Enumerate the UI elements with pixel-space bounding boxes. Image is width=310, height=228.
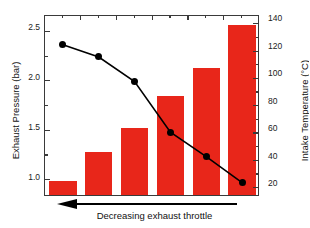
left-arrow-icon bbox=[47, 199, 262, 209]
y-tick-label-left: 1.0 bbox=[28, 172, 40, 182]
y-tick-label-right: 80 bbox=[268, 96, 277, 106]
chart-figure: Exhaust Pressure (bar) Intake Temperatur… bbox=[0, 0, 309, 228]
line-path bbox=[63, 45, 242, 183]
y-tick-left bbox=[44, 80, 50, 81]
y-tick-right bbox=[256, 37, 260, 38]
x-tick-top bbox=[44, 15, 45, 20]
y-axis-label-left: Exhaust Pressure (bar) bbox=[10, 21, 21, 201]
y-tick-left bbox=[44, 154, 48, 155]
annotation-decreasing-throttle: Decreasing exhaust throttle bbox=[47, 199, 262, 209]
y-tick-label-right: 40 bbox=[268, 151, 277, 161]
y-tick-label-right: 100 bbox=[268, 68, 282, 78]
data-point-marker bbox=[203, 153, 210, 160]
x-tick-top bbox=[241, 15, 242, 18]
y-tick-right bbox=[256, 146, 260, 147]
y-tick-label-right: 140 bbox=[268, 13, 282, 23]
y-tick-left bbox=[44, 105, 48, 106]
y-tick-right bbox=[256, 119, 260, 120]
x-tick-top bbox=[205, 15, 206, 18]
y-tick-right bbox=[253, 132, 259, 133]
y-tick-right bbox=[253, 78, 259, 79]
y-tick-right bbox=[256, 173, 260, 174]
annotation-label: Decreasing exhaust throttle bbox=[47, 210, 262, 221]
x-tick-top bbox=[62, 15, 63, 18]
y-tick-right bbox=[253, 51, 259, 52]
y-tick-left bbox=[44, 179, 50, 180]
x-tick-top bbox=[116, 15, 117, 20]
y-axis-label-right: Intake Temperature (°C) bbox=[299, 21, 310, 201]
y-tick-right bbox=[253, 105, 259, 106]
x-tick-top bbox=[223, 15, 224, 20]
y-tick-label-left: 1.5 bbox=[28, 122, 40, 132]
x-tick-top bbox=[134, 15, 135, 18]
plot-area bbox=[44, 15, 259, 196]
x-tick-top bbox=[169, 15, 170, 18]
x-tick-top bbox=[187, 15, 188, 20]
y-tick-left bbox=[44, 31, 50, 32]
y-tick-label-right: 120 bbox=[268, 41, 282, 51]
y-tick-right bbox=[256, 91, 260, 92]
data-point-marker bbox=[167, 129, 174, 136]
x-tick-top bbox=[152, 15, 153, 20]
y-tick-label-left: 2.5 bbox=[28, 22, 40, 32]
y-tick-label-right: 60 bbox=[268, 123, 277, 133]
data-point-marker bbox=[239, 179, 246, 186]
y-tick-right bbox=[253, 23, 259, 24]
y-tick-right bbox=[253, 187, 259, 188]
y-tick-label-right: 20 bbox=[268, 178, 277, 188]
y-tick-right bbox=[253, 160, 259, 161]
y-tick-left bbox=[44, 130, 50, 131]
x-tick-top bbox=[80, 15, 81, 20]
y-tick-label-left: 2.0 bbox=[28, 72, 40, 82]
x-tick-top bbox=[98, 15, 99, 18]
line-series bbox=[45, 16, 259, 196]
y-tick-left bbox=[44, 56, 48, 57]
y-tick-right bbox=[256, 64, 260, 65]
